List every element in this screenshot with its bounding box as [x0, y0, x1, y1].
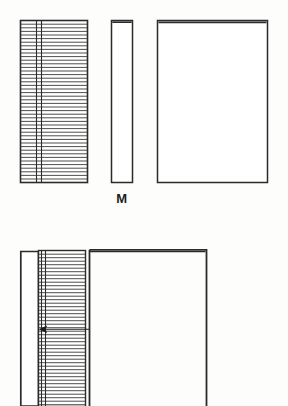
cover-outline: [158, 21, 268, 183]
fore-edge-view: [21, 21, 88, 183]
section-cover-board: [21, 252, 39, 406]
spine-outline: [112, 21, 133, 183]
figure-caption-text: M: [116, 192, 127, 206]
section-right-board: [90, 250, 207, 406]
figure-sheet: M: [0, 0, 288, 406]
section-view: [21, 250, 207, 406]
figure-caption: M: [0, 192, 288, 206]
cover-view: [158, 21, 268, 183]
spine-view: [112, 21, 133, 183]
fore-edge-outline: [21, 21, 88, 183]
